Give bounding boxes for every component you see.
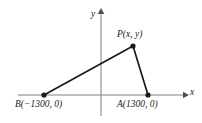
y-axis-label: y bbox=[91, 10, 95, 20]
point-label-B: B(−1300, 0) bbox=[15, 100, 62, 110]
y-axis-arrowhead bbox=[98, 8, 105, 14]
segment-BP bbox=[44, 46, 133, 95]
point-label-P: P(x, y) bbox=[117, 30, 142, 40]
point-marker-P bbox=[130, 43, 135, 48]
x-axis-arrowhead bbox=[183, 92, 189, 99]
point-marker-B bbox=[41, 92, 46, 97]
segment-PA bbox=[133, 46, 148, 95]
x-axis-label: x bbox=[190, 88, 194, 98]
coordinate-geometry-figure: P(x, y) A(1300, 0) B(−1300, 0) x y bbox=[0, 0, 202, 123]
point-label-A: A(1300, 0) bbox=[117, 100, 158, 110]
point-marker-A bbox=[145, 92, 150, 97]
triangle-segments-group bbox=[44, 46, 148, 95]
